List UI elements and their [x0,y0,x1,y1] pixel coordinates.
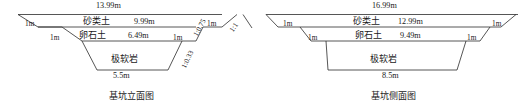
dimension-layer-sandy-soil: 9.99m [134,18,155,26]
layer-label-pebble-soil: 卵石土 [355,31,382,40]
slope-upper-right [501,15,516,28]
slope-lower-left [326,41,328,70]
dimension-layer-pebble-soil: 9.49m [400,32,421,40]
dimension-top: 13.99m [96,2,121,10]
slope-lower-left [82,41,97,70]
berm-label-left-2: 1m [50,34,59,41]
figure-excavation-side: 16.99m 砂类土 12.99m 卵石土 9.49m 极软岩 8.5m 1m … [262,0,525,105]
elevation-drawing [0,0,262,92]
layer-label-soft-rock: 极软岩 [370,55,397,64]
berm-label-left-1: 1m [283,20,292,27]
berm-label-left-2: 1m [308,34,317,41]
slope-lower-right [457,41,466,70]
layer-label-pebble-soil: 卵石土 [79,31,106,40]
layer-label-sandy-soil: 砂类土 [353,17,380,26]
edge-tick-right [243,15,252,29]
slope-mid-right [480,27,490,41]
dimension-layer-sandy-soil: 12.99m [398,18,423,26]
figure-caption-elevation: 基坑立面图 [0,89,262,102]
berm-label-left-1: 1m [25,20,34,27]
berm-label-right-2: 1m [173,34,182,41]
berm-label-right-1: 1m [492,20,501,27]
dimension-top: 16.99m [372,2,397,10]
layer-label-soft-rock: 极软岩 [111,55,138,64]
dimension-bottom: 8.5m [382,72,399,80]
slope-upper-left [266,15,278,28]
berm-label-right-2: 1m [467,34,476,41]
layer-label-sandy-soil: 砂类土 [83,17,110,26]
figure-caption-side: 基坑侧面图 [262,89,525,102]
dimension-bottom: 5.5m [113,72,130,80]
figure-excavation-elevation: 13.99m 砂类土 9.99m 卵石土 6.49m 极软岩 5.5m 1m 1… [0,0,262,105]
berm-label-right-1: 1m [207,20,216,27]
dimension-layer-pebble-soil: 6.49m [128,32,149,40]
